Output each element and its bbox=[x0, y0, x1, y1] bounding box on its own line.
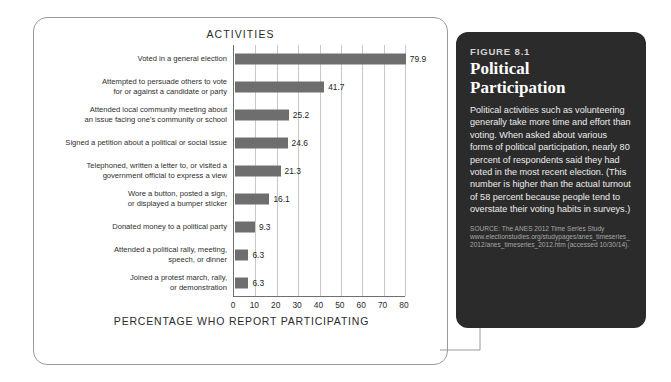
x-tick-label: 80 bbox=[399, 300, 408, 310]
bar-category-label: Attempted to persuade others to vote for… bbox=[35, 77, 227, 96]
x-tick-label: 20 bbox=[271, 300, 280, 310]
bar-value-label: 6.3 bbox=[252, 250, 264, 260]
bar-category-label: Telephoned, written a letter to, or visi… bbox=[35, 161, 227, 180]
bar bbox=[235, 194, 269, 205]
x-axis-ticks: 01020304050607080 bbox=[233, 298, 405, 312]
x-tick-label: 70 bbox=[378, 300, 387, 310]
bar bbox=[235, 110, 289, 121]
bar bbox=[235, 222, 255, 233]
bar bbox=[235, 166, 281, 177]
plot-area: Voted in a general election79.9Attempted… bbox=[233, 45, 405, 297]
x-tick-label: 10 bbox=[250, 300, 259, 310]
x-tick-label: 60 bbox=[357, 300, 366, 310]
x-tick-label: 50 bbox=[335, 300, 344, 310]
figure-number: FIGURE 8.1 bbox=[470, 46, 632, 57]
chart-title: ACTIVITIES bbox=[34, 28, 447, 40]
bar bbox=[235, 54, 406, 65]
plot-wrapper: Voted in a general election79.9Attempted… bbox=[34, 45, 449, 310]
bar-category-label: Wore a button, posted a sign, or display… bbox=[35, 189, 227, 208]
x-tick-label: 40 bbox=[314, 300, 323, 310]
bar-row: Donated money to a political party9.3 bbox=[234, 213, 405, 241]
bar-category-label: Attended local community meeting about a… bbox=[35, 105, 227, 124]
bar-category-label: Joined a protest march, rally, or demons… bbox=[35, 273, 227, 292]
bar-row: Joined a protest march, rally, or demons… bbox=[234, 269, 405, 297]
bar-category-label: Voted in a general election bbox=[35, 54, 227, 64]
bar-value-label: 25.2 bbox=[293, 110, 309, 120]
bar-row: Telephoned, written a letter to, or visi… bbox=[234, 157, 405, 185]
caption-body: Political activities such as volunteerin… bbox=[470, 104, 632, 216]
bar-row: Attended local community meeting about a… bbox=[234, 101, 405, 129]
bar-value-label: 16.1 bbox=[273, 194, 289, 204]
x-axis-label: PERCENTAGE WHO REPORT PARTICIPATING bbox=[34, 315, 449, 327]
bar-value-label: 41.7 bbox=[328, 82, 344, 92]
caption-source: SOURCE: The ANES 2012 Time Series Study … bbox=[470, 225, 632, 250]
x-tick-label: 0 bbox=[231, 300, 236, 310]
bar-category-label: Donated money to a political party bbox=[35, 222, 227, 232]
gridline bbox=[405, 45, 406, 296]
x-tick-label: 30 bbox=[292, 300, 301, 310]
bar-row: Signed a petition about a political or s… bbox=[234, 129, 405, 157]
bar-value-label: 79.9 bbox=[410, 54, 426, 64]
bar bbox=[235, 278, 248, 289]
bar-row: Attempted to persuade others to vote for… bbox=[234, 73, 405, 101]
bar-row: Voted in a general election79.9 bbox=[234, 45, 405, 73]
bar-value-label: 21.3 bbox=[285, 166, 301, 176]
caption-title: Political Participation bbox=[470, 60, 632, 97]
caption-panel: FIGURE 8.1 Political Participation Polit… bbox=[456, 32, 646, 328]
bar bbox=[235, 138, 288, 149]
caption-title-line1: Political bbox=[470, 59, 529, 78]
bar-value-label: 6.3 bbox=[252, 278, 264, 288]
bar-value-label: 9.3 bbox=[259, 222, 271, 232]
chart-card: ACTIVITIES Voted in a general election79… bbox=[33, 17, 448, 365]
caption-title-line2: Participation bbox=[470, 78, 565, 97]
bar-value-label: 24.6 bbox=[292, 138, 308, 148]
bar-row: Attended a political rally, meeting, spe… bbox=[234, 241, 405, 269]
bar bbox=[235, 250, 248, 261]
bar-category-label: Signed a petition about a political or s… bbox=[35, 138, 227, 148]
bar-row: Wore a button, posted a sign, or display… bbox=[234, 185, 405, 213]
bar-category-label: Attended a political rally, meeting, spe… bbox=[35, 245, 227, 264]
bar bbox=[235, 82, 324, 93]
